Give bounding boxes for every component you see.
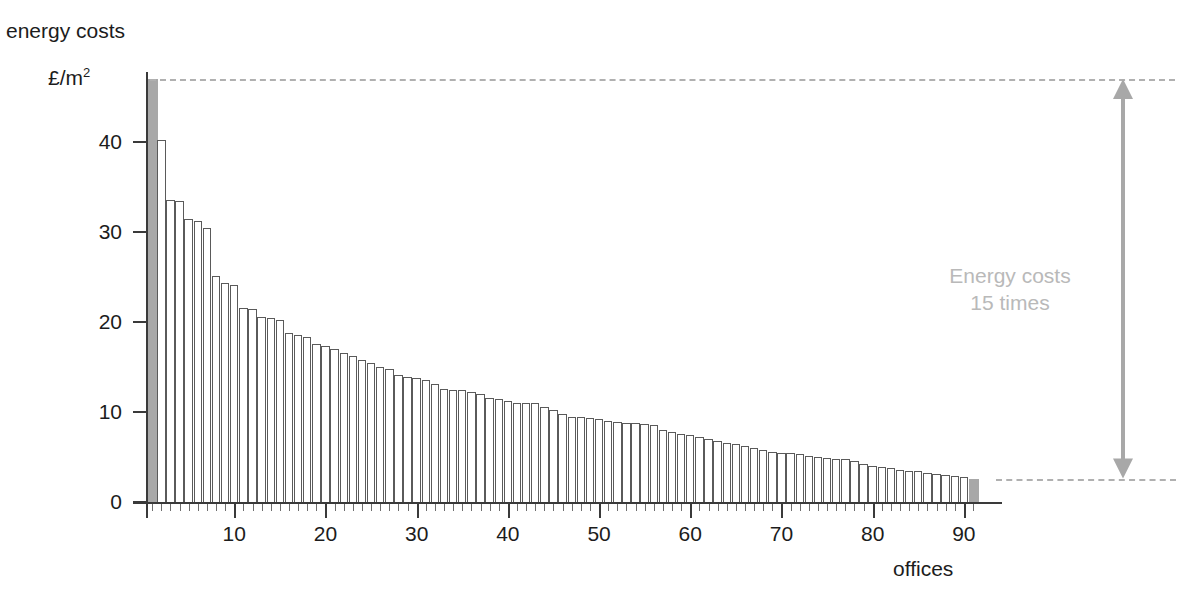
bar bbox=[449, 390, 457, 503]
x-tick bbox=[325, 504, 327, 518]
x-tick-minor bbox=[800, 504, 801, 511]
x-tick-minor bbox=[699, 504, 700, 511]
bar bbox=[184, 219, 192, 502]
bar bbox=[896, 470, 904, 502]
x-tick-minor bbox=[955, 504, 956, 511]
bar bbox=[631, 423, 639, 502]
x-tick-minor bbox=[672, 504, 673, 511]
x-axis-line bbox=[133, 502, 1002, 504]
x-tick-minor bbox=[444, 504, 445, 511]
bar bbox=[321, 346, 329, 502]
x-tick-minor bbox=[617, 504, 618, 511]
bar bbox=[604, 421, 612, 502]
bar bbox=[759, 450, 767, 502]
x-tick-label: 50 bbox=[569, 522, 629, 546]
x-tick-minor bbox=[772, 504, 773, 511]
x-tick-minor bbox=[426, 504, 427, 511]
x-tick-minor bbox=[462, 504, 463, 511]
x-tick-minor bbox=[827, 504, 828, 511]
bar bbox=[203, 228, 211, 502]
x-tick-minor bbox=[298, 504, 299, 511]
bar bbox=[868, 466, 876, 502]
x-tick-minor bbox=[535, 504, 536, 511]
bar bbox=[403, 377, 411, 502]
bar bbox=[340, 353, 348, 502]
bar bbox=[932, 474, 940, 502]
bar bbox=[805, 456, 813, 502]
x-tick-minor bbox=[736, 504, 737, 511]
bar bbox=[841, 459, 849, 502]
bar bbox=[713, 441, 721, 502]
bar bbox=[212, 276, 220, 502]
x-tick-minor bbox=[763, 504, 764, 511]
x-tick-minor bbox=[189, 504, 190, 511]
bar bbox=[814, 457, 822, 502]
x-tick-minor bbox=[517, 504, 518, 511]
bar bbox=[960, 477, 968, 502]
x-tick-label: 40 bbox=[478, 522, 538, 546]
x-tick bbox=[417, 504, 419, 518]
bar bbox=[786, 453, 794, 502]
x-tick-minor bbox=[818, 504, 819, 511]
x-tick-minor bbox=[626, 504, 627, 511]
bar bbox=[704, 439, 712, 502]
bar bbox=[859, 464, 867, 502]
x-tick-minor bbox=[681, 504, 682, 511]
ratio-annotation: Energy costs15 times bbox=[920, 262, 1100, 316]
x-tick-minor bbox=[526, 504, 527, 511]
bar bbox=[577, 417, 585, 502]
bar bbox=[832, 459, 840, 502]
x-tick-minor bbox=[864, 504, 865, 511]
bar bbox=[267, 318, 275, 502]
x-tick-minor bbox=[353, 504, 354, 511]
guide-line-bottom bbox=[996, 479, 1176, 481]
bar bbox=[376, 367, 384, 502]
bar bbox=[613, 422, 621, 502]
x-tick-minor bbox=[590, 504, 591, 511]
x-tick-label: 30 bbox=[387, 522, 447, 546]
x-tick-minor bbox=[481, 504, 482, 511]
bar bbox=[741, 446, 749, 502]
bar bbox=[394, 375, 402, 502]
bar bbox=[495, 399, 503, 502]
bar bbox=[695, 437, 703, 502]
x-tick-minor bbox=[435, 504, 436, 511]
bar bbox=[923, 473, 931, 502]
bar bbox=[513, 403, 521, 502]
x-tick-minor bbox=[581, 504, 582, 511]
x-axis-label: offices bbox=[893, 557, 953, 581]
bar bbox=[659, 430, 667, 502]
bar bbox=[412, 378, 420, 502]
y-tick bbox=[133, 141, 148, 143]
bar bbox=[887, 468, 895, 502]
x-tick-label: 90 bbox=[934, 522, 994, 546]
x-tick-minor bbox=[216, 504, 217, 511]
x-tick-minor bbox=[335, 504, 336, 511]
x-tick-minor bbox=[499, 504, 500, 511]
bar bbox=[777, 453, 785, 503]
bar bbox=[586, 418, 594, 502]
x-tick-minor bbox=[289, 504, 290, 511]
x-tick-minor bbox=[937, 504, 938, 511]
bar bbox=[558, 414, 566, 502]
ratio-annotation-line1: Energy costs bbox=[949, 264, 1070, 287]
range-arrow bbox=[1100, 67, 1146, 491]
x-tick-minor bbox=[727, 504, 728, 511]
x-tick-minor bbox=[918, 504, 919, 511]
x-tick bbox=[781, 504, 783, 518]
bar bbox=[458, 390, 466, 502]
x-tick-label: 20 bbox=[295, 522, 355, 546]
bar bbox=[248, 309, 256, 502]
x-tick bbox=[873, 504, 875, 518]
x-tick-minor bbox=[973, 504, 974, 511]
bar bbox=[522, 403, 530, 502]
x-tick-label: 60 bbox=[660, 522, 720, 546]
bars-layer bbox=[0, 0, 1181, 502]
x-tick-minor bbox=[170, 504, 171, 511]
bar bbox=[850, 461, 858, 502]
x-tick-minor bbox=[544, 504, 545, 511]
x-tick-minor bbox=[791, 504, 792, 511]
x-tick-minor bbox=[900, 504, 901, 511]
bar bbox=[485, 398, 493, 502]
x-tick-minor bbox=[608, 504, 609, 511]
